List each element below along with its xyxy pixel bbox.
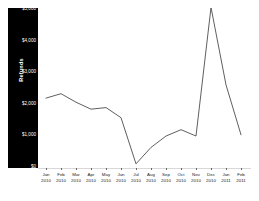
x-axis-labels: Jan2010Feb2010Mar2010Apr2010May2010Jun20… <box>38 170 251 198</box>
y-tick-label: $2,000 <box>22 101 36 107</box>
x-tick-mark <box>211 168 212 170</box>
y-tick-label: $3,000 <box>22 69 36 75</box>
line-chart-svg <box>38 8 251 168</box>
x-tick-mark <box>106 168 107 170</box>
y-tick-label: $0 <box>31 164 36 170</box>
x-tick-mark <box>196 168 197 170</box>
y-axis-panel: Refunds $0$1,000$2,000$3,000$4,000$5,000 <box>8 8 38 168</box>
x-tick-mark <box>136 168 137 170</box>
x-tick-mark <box>91 168 92 170</box>
plot-area <box>38 8 251 168</box>
y-tick-label: $4,000 <box>22 38 36 44</box>
x-tick-mark <box>151 168 152 170</box>
x-axis-baseline <box>38 168 251 169</box>
x-tick-year: 2011 <box>230 178 252 184</box>
x-tick-mark <box>166 168 167 170</box>
x-tick-mark <box>241 168 242 170</box>
x-tick-mark <box>76 168 77 170</box>
x-tick-mark <box>61 168 62 170</box>
series-refunds-line <box>46 8 241 164</box>
x-tick-label: Feb2011 <box>230 172 252 184</box>
x-tick-mark <box>46 168 47 170</box>
y-tick-label: $1,000 <box>22 132 36 138</box>
y-tick-label: $5,000 <box>22 6 36 12</box>
x-tick-mark <box>121 168 122 170</box>
chart-container: Refunds $0$1,000$2,000$3,000$4,000$5,000… <box>0 0 259 201</box>
x-tick-mark <box>226 168 227 170</box>
x-tick-mark <box>181 168 182 170</box>
